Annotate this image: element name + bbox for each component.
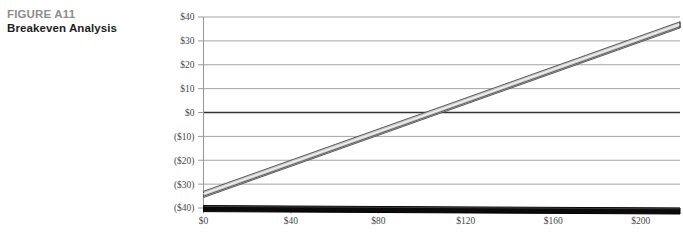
chart-svg: $40$30$20$10$0($10)($20)($30)($40) $0$40… — [0, 0, 683, 246]
series-profit-line — [204, 22, 681, 198]
y-tick-label: ($40) — [174, 203, 195, 214]
y-tick-label: $10 — [180, 84, 195, 94]
y-tick-label: $0 — [185, 108, 195, 118]
chart-series — [204, 22, 681, 214]
y-tick-label: $20 — [180, 60, 195, 70]
x-tick-label: $0 — [199, 216, 209, 226]
x-tick-label: $160 — [544, 216, 563, 226]
series-highlight — [204, 24, 681, 194]
y-tick-label: ($20) — [174, 156, 195, 167]
figure-root: FIGURE A11 Breakeven Analysis $40$30$20$… — [0, 0, 683, 246]
y-tick-label: ($30) — [174, 180, 195, 191]
x-tick-label: $200 — [631, 216, 650, 226]
x-axis-tick-labels: $0$40$80$120$160$200 — [199, 216, 651, 226]
x-tick-label: $120 — [456, 216, 475, 226]
x-tick-label: $40 — [284, 216, 299, 226]
series-shadow — [204, 27, 681, 197]
y-axis-ticks — [198, 17, 204, 208]
y-tick-label: $30 — [180, 36, 195, 46]
x-tick-label: $80 — [371, 216, 386, 226]
y-tick-label: $40 — [180, 12, 195, 22]
y-tick-label: ($10) — [174, 132, 195, 143]
breakeven-chart: $40$30$20$10$0($10)($20)($30)($40) $0$40… — [0, 0, 683, 246]
y-axis-tick-labels: $40$30$20$10$0($10)($20)($30)($40) — [174, 12, 195, 214]
series-baseline-line — [204, 206, 681, 214]
